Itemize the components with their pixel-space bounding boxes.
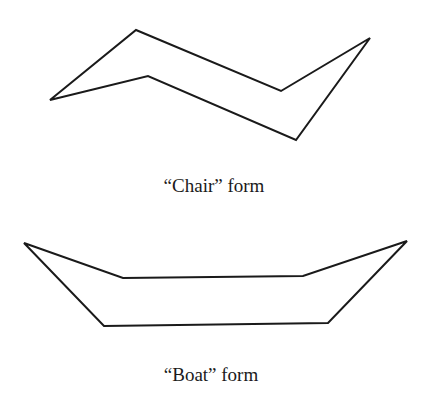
diagram-canvas: “Chair” form “Boat” form <box>0 0 430 406</box>
conformation-drawings <box>0 0 430 406</box>
chair-conformation-shape <box>50 30 370 140</box>
boat-form-label: “Boat” form <box>164 364 258 386</box>
chair-form-label: “Chair” form <box>164 175 265 197</box>
boat-conformation-shape <box>24 241 407 326</box>
